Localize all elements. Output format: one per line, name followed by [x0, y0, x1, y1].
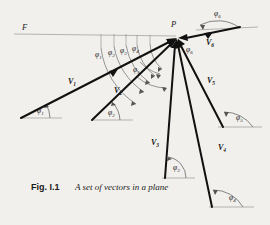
arc-p-arrow-6	[156, 74, 161, 79]
label-v2: V2	[114, 86, 122, 96]
arc-p-arrow-1	[131, 101, 136, 106]
label-phi4-tail: φ4	[229, 193, 236, 203]
label-phi6-outer: φ6	[214, 9, 221, 19]
arc-p-arrow-7	[162, 87, 167, 92]
label-phi3-tail: φ3	[173, 163, 180, 173]
arc-p-arrow-5	[158, 67, 162, 72]
label-phi5-origin: φ5	[133, 65, 140, 75]
vector-shafts	[21, 27, 240, 207]
label-phi5-tail: φ5	[236, 113, 243, 123]
arc-arrow-phi4	[213, 190, 218, 195]
vector-labels: V1 V2 V3 V4 V5 V6	[68, 38, 226, 153]
vector-shaft-v4	[178, 45, 212, 207]
arc-arrow-phi5	[224, 112, 229, 117]
label-v1: V1	[68, 77, 76, 87]
label-v3: V3	[151, 138, 159, 148]
midarrow-v1	[109, 69, 118, 77]
arc-p-arrow-2	[139, 89, 144, 94]
label-phi1-top: φ1	[95, 50, 102, 60]
tail-angle-arcs	[46, 21, 253, 207]
label-v4: V4	[218, 143, 226, 153]
label-phi2-top: φ2	[108, 48, 115, 58]
label-phi6-origin: φ6	[186, 45, 193, 55]
figure-caption-text: A set of vectors in a plane	[74, 182, 168, 192]
label-phi3-top: φ3	[120, 46, 127, 56]
frame-label-F: F	[21, 22, 28, 32]
figure-caption-label: Fig. I.1	[31, 182, 60, 192]
label-v6: V6	[206, 38, 214, 48]
label-phi4-top: φ4	[132, 44, 139, 54]
arc-phi4	[213, 190, 243, 207]
label-phi2-tail: φ2	[108, 108, 115, 118]
origin-label-P: P	[170, 19, 176, 29]
vector-diagram: F P φ1 φ2 φ3 φ4 φ5 φ6 φ6 φ1 φ2 φ3 φ4 φ5 …	[0, 0, 270, 225]
arc-phi6-outer	[200, 21, 240, 28]
vector-shaft-v6	[186, 27, 240, 38]
vector-shaft-v2	[92, 43, 172, 120]
arc-arrow-phi6	[200, 25, 205, 30]
arrowhead-v6	[178, 34, 188, 41]
reference-lines	[14, 27, 262, 207]
label-v5: V5	[207, 76, 215, 86]
frame-line-F	[14, 34, 176, 36]
